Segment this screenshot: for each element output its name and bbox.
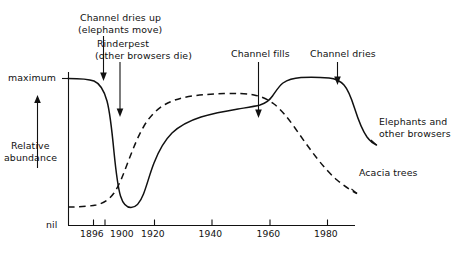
- annotation-rinderpest-line2: (other browsers die): [95, 50, 192, 62]
- x-tick-label-1940: 1940: [199, 228, 223, 239]
- y-axis-maximum-label: maximum: [8, 72, 56, 84]
- annotation-arrow-channel-fills: [255, 62, 262, 118]
- annotation-channel-dries: Channel dries: [310, 48, 376, 60]
- annotation-channel-dries-up-line1: Channel dries up: [80, 12, 161, 24]
- figure-container: Channel dries up (elephants move) Rinder…: [0, 0, 453, 260]
- y-axis-title-line1: Relative: [11, 140, 50, 152]
- x-tick-label-1896: 1896: [80, 228, 104, 239]
- series-line-elephants: [68, 77, 377, 207]
- annotation-arrow-rinderpest: [117, 62, 124, 117]
- x-tick-label-1980: 1980: [314, 228, 338, 239]
- x-tick-label-1960: 1960: [257, 228, 281, 239]
- series-label-elephants-line1: Elephants and: [379, 116, 447, 128]
- series-label-acacia: Acacia trees: [359, 167, 418, 179]
- y-axis-title-line2: abundance: [4, 152, 57, 164]
- series-line-acacia: [68, 93, 357, 207]
- annotation-channel-dries-up-line2: (elephants move): [78, 24, 162, 36]
- series-label-elephants-line2: other browsers: [379, 128, 451, 140]
- x-axis-ticks: [94, 220, 328, 226]
- y-axis-nil-label: nil: [46, 219, 57, 231]
- annotation-rinderpest-line1: Rinderpest: [97, 38, 149, 50]
- x-tick-label-1920: 1920: [141, 228, 165, 239]
- x-tick-label-1900: 1900: [110, 228, 134, 239]
- annotation-channel-fills: Channel fills: [231, 48, 290, 60]
